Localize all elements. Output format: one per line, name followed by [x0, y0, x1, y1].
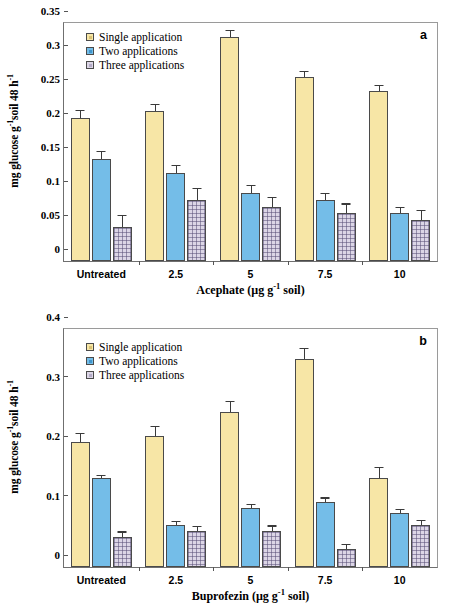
- bar: [316, 502, 335, 567]
- x-axis-tick-mark: [288, 261, 289, 265]
- error-bar-cap: [395, 207, 404, 208]
- y-axis-title-a-mid: soil 48 h: [8, 81, 20, 120]
- bar: [113, 227, 132, 261]
- error-bar: [80, 111, 81, 118]
- y-axis-tick-mark: [64, 317, 68, 318]
- x-axis-tick-mark: [139, 261, 140, 265]
- error-bar: [101, 152, 102, 159]
- y-axis-tick-label: 0.2: [46, 430, 64, 442]
- legend-label-two: Two applications: [99, 45, 178, 57]
- legend-label-three: Three applications: [99, 369, 184, 381]
- y-axis-tick-label: 0: [55, 243, 65, 255]
- error-bar-cap: [374, 467, 383, 468]
- panel-letter-a: a: [420, 28, 427, 42]
- bar: [390, 213, 409, 261]
- error-bar-cap: [225, 401, 234, 402]
- legend-swatch-single-icon: [86, 33, 94, 41]
- x-axis-title-a-pre: Acephate (µg g: [196, 283, 273, 297]
- y-axis-title-b: mg glucose g-1soil 48 h-1: [2, 306, 24, 568]
- error-bar-cap: [192, 188, 201, 189]
- x-axis-title-a: Acephate (µg g-1 soil): [63, 281, 438, 298]
- y-axis-title-a-pre: mg glucose g: [8, 126, 20, 187]
- y-axis-tick-label: 0.3: [46, 371, 64, 383]
- error-bar-cap: [342, 203, 351, 204]
- error-bar: [197, 189, 198, 200]
- legend-label-two: Two applications: [99, 355, 178, 367]
- legend-label-single: Single application: [99, 31, 182, 43]
- error-bar-cap: [171, 165, 180, 166]
- y-axis-tick: 0: [55, 243, 65, 255]
- bar: [369, 478, 388, 567]
- panel-letter-b: b: [419, 334, 427, 348]
- x-axis-category-label: 7.5: [318, 574, 333, 586]
- error-bar-cap: [246, 504, 255, 505]
- legend-item-three-b: Three applications: [86, 369, 184, 381]
- y-axis-tick-label: 0.15: [41, 141, 64, 153]
- y-axis-title-b-mid: soil 48 h: [8, 387, 20, 426]
- legend-swatch-two-icon: [86, 357, 94, 365]
- legend-item-three-a: Three applications: [86, 59, 184, 71]
- bar: [166, 173, 185, 261]
- y-axis-tick-label: 0.05: [41, 209, 64, 221]
- y-axis-tick-mark: [64, 147, 68, 148]
- y-axis-tick-mark: [64, 495, 68, 496]
- y-axis-tick-mark: [64, 249, 68, 250]
- legend-a: Single application Two applications Thre…: [86, 31, 184, 71]
- x-axis-category-label: 2.5: [169, 268, 184, 280]
- error-bar: [176, 522, 177, 525]
- legend-swatch-two-icon: [86, 47, 94, 55]
- y-axis-tick: 0.25: [41, 73, 64, 85]
- x-axis-category-label: Untreated: [77, 268, 126, 280]
- error-bar: [346, 545, 347, 549]
- x-axis-category-label: Untreated: [77, 574, 126, 586]
- y-axis-tick-mark: [64, 555, 68, 556]
- y-axis-tick: 0: [55, 549, 65, 561]
- bar: [220, 37, 239, 261]
- y-axis-tick: 0.15: [41, 141, 64, 153]
- error-bar-cap: [171, 521, 180, 522]
- y-axis-tick: 0.1: [46, 490, 64, 502]
- bar: [337, 213, 356, 261]
- y-axis-tick-mark: [64, 113, 68, 114]
- error-bar: [230, 402, 231, 413]
- bar: [71, 442, 90, 567]
- error-bar-cap: [76, 433, 85, 434]
- error-bar-cap: [267, 197, 276, 198]
- y-axis-tick-mark: [64, 215, 68, 216]
- y-axis-tick: 0.3: [46, 371, 64, 383]
- error-bar-cap: [416, 520, 425, 521]
- y-axis-tick: 0.4: [46, 311, 64, 323]
- error-bar: [421, 521, 422, 526]
- bar: [316, 200, 335, 261]
- error-bar: [176, 166, 177, 173]
- error-bar-cap: [76, 110, 85, 111]
- x-axis-title-a-post: soil): [280, 283, 304, 297]
- y-axis-title-b-sup1: -1: [6, 426, 15, 432]
- x-axis-category-label: 5: [248, 574, 254, 586]
- legend-swatch-single-icon: [86, 343, 94, 351]
- legend-item-single-b: Single application: [86, 341, 184, 353]
- error-bar: [122, 533, 123, 538]
- x-axis-tick-mark: [139, 567, 140, 571]
- bar: [145, 436, 164, 567]
- y-axis-tick-mark: [64, 45, 68, 46]
- bar: [166, 525, 185, 567]
- error-bar-cap: [97, 151, 106, 152]
- y-axis-title-b-sup2: -1: [6, 380, 15, 386]
- y-axis-tick-mark: [64, 436, 68, 437]
- y-axis-tick-label: 0.2: [46, 107, 64, 119]
- y-axis-tick-mark: [64, 11, 68, 12]
- error-bar-cap: [321, 193, 330, 194]
- y-axis-tick-label: 0.25: [41, 73, 64, 85]
- x-axis-title-b-sup: -1: [278, 587, 285, 597]
- y-axis-tick-label: 0.1: [46, 490, 64, 502]
- error-bar-cap: [192, 526, 201, 527]
- error-bar: [325, 499, 326, 502]
- bar: [411, 525, 430, 567]
- plot-area-a: a Single application Two applications Th…: [63, 22, 438, 262]
- error-bar-cap: [150, 104, 159, 105]
- x-axis-category-label: 10: [394, 268, 406, 280]
- error-bar: [230, 31, 231, 36]
- legend-item-two-a: Two applications: [86, 45, 184, 57]
- bar: [241, 508, 260, 568]
